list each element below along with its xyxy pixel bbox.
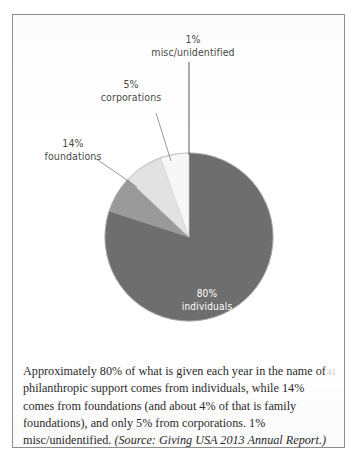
leader-line-corporations xyxy=(156,113,171,161)
callout-misc-unidentified-name: misc/unidentified xyxy=(133,46,253,59)
callout-corporations-percent: 5% xyxy=(79,78,183,91)
figure-frame: 1% misc/unidentified 5% corporations 14%… xyxy=(12,14,345,448)
callout-corporations: 5% corporations xyxy=(79,78,183,104)
callout-misc-unidentified: 1% misc/unidentified xyxy=(133,33,253,59)
figure-caption: Approximately 80% of what is given each … xyxy=(23,363,335,450)
callout-corporations-name: corporations xyxy=(79,91,183,104)
callout-foundations-percent: 14% xyxy=(21,137,125,150)
slice-label-individuals: 80% individuals xyxy=(161,287,253,313)
pie-chart: 1% misc/unidentified 5% corporations 14%… xyxy=(13,15,344,345)
callout-foundations: 14% foundations xyxy=(21,137,125,163)
scan-artifact: 41 xyxy=(327,367,339,377)
caption-source: (Source: Giving USA 2013 Annual Report.) xyxy=(114,433,326,447)
callout-foundations-name: foundations xyxy=(21,150,125,163)
slice-label-individuals-name: individuals xyxy=(161,300,253,313)
callout-misc-unidentified-percent: 1% xyxy=(133,33,253,46)
slice-label-individuals-percent: 80% xyxy=(161,287,253,300)
